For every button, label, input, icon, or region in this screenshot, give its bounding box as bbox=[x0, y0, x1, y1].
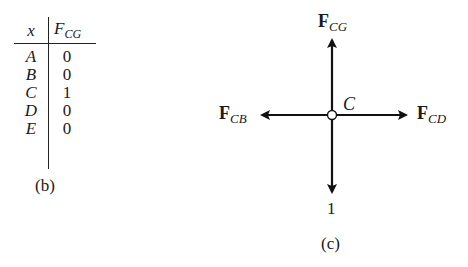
joint-label-c: C bbox=[343, 94, 355, 115]
free-body-diagram bbox=[0, 0, 468, 267]
caption-c: (c) bbox=[321, 234, 340, 254]
label-f-cd: FCD bbox=[417, 103, 446, 124]
load-label: 1 bbox=[327, 199, 336, 219]
label-f-cb: FCB bbox=[219, 103, 247, 124]
joint-c-icon bbox=[328, 111, 337, 120]
label-f-cg: FCG bbox=[318, 11, 347, 32]
